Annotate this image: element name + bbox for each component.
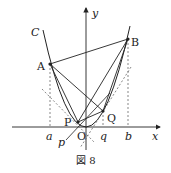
parabola-diagram: C y x O A B P Q a p q b 図 8 <box>0 0 171 173</box>
tick-label-q: q <box>100 130 107 143</box>
origin-label: O <box>77 130 86 143</box>
tick-label-p: p <box>58 136 65 149</box>
point-B <box>126 37 129 40</box>
x-axis-label: x <box>152 130 159 143</box>
tick-label-a: a <box>46 130 53 143</box>
point-P-label: P <box>64 116 72 129</box>
y-axis-label: y <box>91 7 99 20</box>
tick-label-b: b <box>125 130 132 143</box>
point-Q <box>101 109 104 112</box>
point-B-label: B <box>131 36 139 49</box>
point-A-label: A <box>36 60 46 73</box>
point-A <box>48 62 51 65</box>
chord-AB <box>50 39 128 64</box>
point-Q-label: Q <box>107 112 116 125</box>
curve-label-C: C <box>31 26 40 39</box>
point-P <box>76 120 79 123</box>
chord-AP <box>50 64 78 122</box>
figure-caption: 図 8 <box>76 155 96 166</box>
